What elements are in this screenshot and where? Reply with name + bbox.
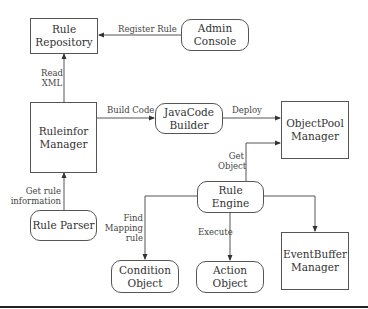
edge-get-object xyxy=(246,143,280,181)
node-objectpool-manager: ObjectPool Manager xyxy=(281,101,349,159)
edge-find-mapping-rule xyxy=(145,196,197,259)
edge-eventbuffer xyxy=(264,196,315,231)
label-execute: Execute xyxy=(198,227,233,237)
label-get-rule-information: Get rule information xyxy=(4,186,61,206)
node-rule-engine: Rule Engine xyxy=(197,181,264,213)
node-rule-parser: Rule Parser xyxy=(30,210,97,241)
node-ruleinfor-manager: Ruleinfor Manager xyxy=(30,102,97,173)
node-eventbuffer-manager: EventBuffer Manager xyxy=(281,232,349,290)
bottom-rule xyxy=(0,306,368,308)
label-deploy: Deploy xyxy=(232,105,262,115)
node-admin-console: Admin Console xyxy=(181,19,249,51)
node-action-object: Action Object xyxy=(196,261,264,293)
label-build-code: Build Code xyxy=(107,105,154,115)
label-get-object: Get Object xyxy=(218,151,244,171)
node-condition-object: Condition Object xyxy=(111,260,179,293)
node-javacode-builder: JavaCode Builder xyxy=(155,103,223,134)
architecture-diagram: Rule Repository Admin Console Ruleinfor … xyxy=(0,0,368,309)
label-read-xml: Read XML xyxy=(41,68,63,88)
label-register-rule: Register Rule xyxy=(118,24,177,34)
label-find-mapping-rule: Find Mapping rule xyxy=(104,213,143,243)
node-rule-repository: Rule Repository xyxy=(30,18,98,54)
